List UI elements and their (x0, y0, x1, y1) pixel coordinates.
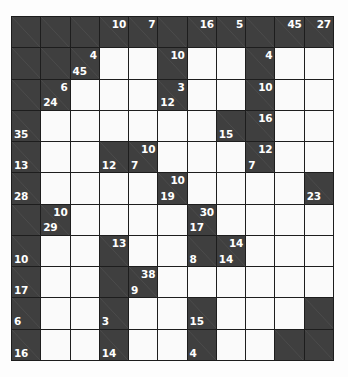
clue-cell-across-14: 14 (99, 329, 128, 360)
entry-cell[interactable] (216, 204, 245, 235)
entry-cell[interactable] (158, 110, 187, 141)
entry-cell[interactable] (216, 142, 245, 173)
entry-cell[interactable] (246, 204, 275, 235)
entry-cell[interactable] (304, 110, 333, 141)
entry-cell[interactable] (129, 235, 158, 266)
blocked-cell (304, 329, 333, 360)
entry-cell[interactable] (41, 267, 70, 298)
kakuro-table[interactable]: 1071654527445104624312103515161312107127… (11, 16, 334, 361)
entry-cell[interactable] (275, 79, 304, 110)
entry-cell[interactable] (275, 204, 304, 235)
down-clue: 16 (200, 19, 214, 30)
entry-cell[interactable] (275, 48, 304, 79)
entry-cell[interactable] (246, 173, 275, 204)
down-clue: 3 (177, 82, 184, 93)
diagonal-divider-icon (100, 267, 128, 297)
clue-cell-across-15: 15 (216, 110, 245, 141)
entry-cell[interactable] (41, 298, 70, 329)
entry-cell[interactable] (129, 48, 158, 79)
entry-cell[interactable] (129, 329, 158, 360)
kakuro-grid[interactable]: 1071654527445104624312103515161312107127… (11, 16, 333, 361)
clue-cell-across-10: 10 (12, 235, 41, 266)
entry-cell[interactable] (246, 235, 275, 266)
clue-cell-down-45: 45 (275, 17, 304, 48)
down-clue: 4 (265, 50, 272, 61)
clue-cell-down-10: 10 (158, 48, 187, 79)
entry-cell[interactable] (99, 173, 128, 204)
entry-cell[interactable] (41, 235, 70, 266)
entry-cell[interactable] (216, 79, 245, 110)
entry-cell[interactable] (246, 329, 275, 360)
entry-cell[interactable] (158, 235, 187, 266)
entry-cell[interactable] (216, 48, 245, 79)
entry-cell[interactable] (275, 142, 304, 173)
across-clue: 14 (219, 254, 233, 265)
entry-cell[interactable] (187, 48, 216, 79)
entry-cell[interactable] (187, 267, 216, 298)
entry-cell[interactable] (129, 204, 158, 235)
entry-cell[interactable] (304, 48, 333, 79)
entry-cell[interactable] (99, 204, 128, 235)
entry-cell[interactable] (275, 110, 304, 141)
down-clue: 6 (60, 82, 67, 93)
clue-cell-across-6: 6 (12, 298, 41, 329)
entry-cell[interactable] (304, 235, 333, 266)
entry-cell[interactable] (304, 79, 333, 110)
entry-cell[interactable] (41, 142, 70, 173)
entry-cell[interactable] (70, 235, 99, 266)
entry-cell[interactable] (70, 142, 99, 173)
entry-cell[interactable] (158, 204, 187, 235)
entry-cell[interactable] (216, 298, 245, 329)
entry-cell[interactable] (187, 173, 216, 204)
entry-cell[interactable] (129, 79, 158, 110)
blocked-cell (246, 17, 275, 48)
blocked-cell (12, 48, 41, 79)
entry-cell[interactable] (70, 79, 99, 110)
blocked-cell (12, 17, 41, 48)
entry-cell[interactable] (304, 142, 333, 173)
entry-cell[interactable] (187, 142, 216, 173)
entry-cell[interactable] (70, 173, 99, 204)
entry-cell[interactable] (70, 110, 99, 141)
down-clue: 10 (112, 19, 126, 30)
entry-cell[interactable] (129, 173, 158, 204)
entry-cell[interactable] (41, 110, 70, 141)
entry-cell[interactable] (275, 267, 304, 298)
entry-cell[interactable] (41, 173, 70, 204)
entry-cell[interactable] (99, 48, 128, 79)
entry-cell[interactable] (275, 298, 304, 329)
down-clue: 13 (112, 238, 126, 249)
clue-cell-across-17: 17 (12, 267, 41, 298)
entry-cell[interactable] (187, 110, 216, 141)
entry-cell[interactable] (70, 204, 99, 235)
entry-cell[interactable] (70, 329, 99, 360)
entry-cell[interactable] (158, 142, 187, 173)
entry-cell[interactable] (187, 79, 216, 110)
entry-cell[interactable] (216, 173, 245, 204)
entry-cell[interactable] (129, 298, 158, 329)
entry-cell[interactable] (70, 298, 99, 329)
entry-cell[interactable] (129, 110, 158, 141)
entry-cell[interactable] (158, 329, 187, 360)
entry-cell[interactable] (70, 267, 99, 298)
entry-cell[interactable] (99, 79, 128, 110)
clue-cell-across-3: 3 (99, 298, 128, 329)
entry-cell[interactable] (41, 329, 70, 360)
entry-cell[interactable] (158, 298, 187, 329)
entry-cell[interactable] (246, 298, 275, 329)
across-clue: 9 (131, 285, 138, 296)
entry-cell[interactable] (158, 267, 187, 298)
entry-cell[interactable] (304, 267, 333, 298)
entry-cell[interactable] (216, 267, 245, 298)
entry-cell[interactable] (304, 204, 333, 235)
entry-cell[interactable] (99, 110, 128, 141)
blocked-cell (70, 17, 99, 48)
across-clue: 7 (131, 160, 138, 171)
entry-cell[interactable] (246, 267, 275, 298)
down-clue: 38 (141, 269, 155, 280)
entry-cell[interactable] (275, 235, 304, 266)
entry-cell[interactable] (275, 173, 304, 204)
entry-cell[interactable] (216, 329, 245, 360)
diagonal-divider-icon (41, 17, 69, 47)
clue-cell-down-38-across-9: 389 (129, 267, 158, 298)
